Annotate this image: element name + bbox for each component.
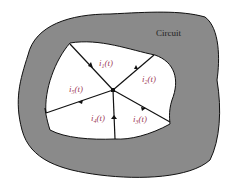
node-dot <box>111 88 115 92</box>
current-label-i2: i2(t) <box>142 74 156 85</box>
circuit-label: Circuit <box>156 28 181 38</box>
current-label-i1: i1(t) <box>99 58 113 69</box>
current-label-i4: i4(t) <box>91 113 105 124</box>
current-label-i5: i5(t) <box>69 84 83 95</box>
kcl-diagram: Circuit i1(t) i2(t) i3(t) i4(t) i5(t) <box>0 0 233 184</box>
current-label-i3: i3(t) <box>133 114 147 125</box>
